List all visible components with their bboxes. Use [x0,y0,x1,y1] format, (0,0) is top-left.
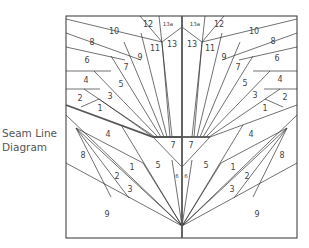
label-bl-2: 2 [114,172,119,181]
label-tr-8: 8 [270,37,275,46]
label-tr-5: 5 [242,79,247,88]
label-tl-8: 8 [89,38,94,47]
label-br-4: 4 [248,130,253,139]
label-bl-9: 9 [104,210,109,219]
label-tl-1: 1 [97,104,102,113]
label-bl-4: 4 [105,130,110,139]
label-br-1: 1 [230,163,235,172]
label-tr-7: 7 [235,63,240,72]
label-tr-13a: 13a [190,21,200,27]
label-bl-3: 3 [127,185,132,194]
thick-seam-lines [66,16,210,238]
label-tl-13: 13 [167,40,177,49]
label-tr-3: 3 [252,91,257,100]
label-tl-10: 10 [109,27,119,36]
label-tr-11: 11 [205,44,215,53]
label-bl-1: 1 [129,163,134,172]
label-br-6: 6 [184,173,188,179]
label-br-5: 5 [203,161,208,170]
label-br-8: 8 [279,151,284,160]
label-bl-5: 5 [155,161,160,170]
label-tr-6: 6 [274,54,279,63]
label-br-9: 9 [254,210,259,219]
label-tr-2: 2 [282,93,287,102]
label-tr-9: 9 [221,53,226,62]
label-tl-7: 7 [123,63,128,72]
label-br-3: 3 [229,185,234,194]
label-tr-4: 4 [277,75,282,84]
seam-line-diagram: 12 13a 10 11 13 8 9 6 7 4 5 2 3 1 12 13a… [0,0,309,248]
label-tl-4: 4 [83,76,88,85]
label-tl-5: 5 [118,80,123,89]
label-br-2: 2 [244,172,249,181]
label-tl-12: 12 [143,20,153,29]
label-tl-6: 6 [84,56,89,65]
label-tr-13: 13 [187,40,197,49]
label-bl-6: 6 [175,173,179,179]
label-tl-2: 2 [77,94,82,103]
label-tl-13a: 13a [163,21,173,27]
label-tl-3: 3 [107,92,112,101]
label-tr-1: 1 [262,104,267,113]
label-tr-10: 10 [249,27,259,36]
label-br-7: 7 [188,141,193,150]
label-tl-9: 9 [137,53,142,62]
label-tr-12: 12 [214,20,224,29]
label-bl-7: 7 [170,141,175,150]
label-bl-8: 8 [80,151,85,160]
label-tl-11: 11 [150,44,160,53]
